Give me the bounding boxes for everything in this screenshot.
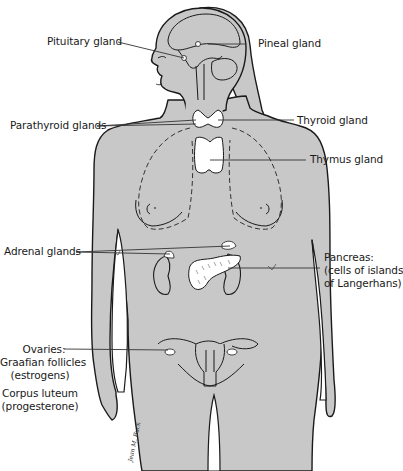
label-pancreas-line3: of Langerhans): [324, 277, 403, 290]
label-estrogens: (estrogens): [0, 369, 80, 382]
label-thyroid-gland: Thyroid gland: [297, 114, 368, 127]
adrenal-gland-right: [222, 241, 236, 249]
label-ovaries: Ovaries:: [0, 343, 80, 356]
label-pineal-gland: Pineal gland: [258, 37, 321, 50]
label-parathyroid-glands: Parathyroid glands: [10, 119, 106, 132]
label-pancreas-line2: (cells of islands: [324, 264, 403, 277]
label-thymus-gland: Thymus gland: [310, 153, 383, 166]
label-pituitary-gland: Pituitary gland: [47, 35, 122, 48]
label-pancreas: Pancreas: (cells of islands of Langerhan…: [324, 251, 403, 290]
label-pancreas-line1: Pancreas:: [324, 251, 403, 264]
label-ovaries-group: Ovaries: Graafian follicles (estrogens) …: [0, 343, 80, 413]
label-adrenal-glands: Adrenal glands: [4, 245, 81, 258]
thymus-gland-shape: [195, 137, 224, 173]
mouth: [156, 84, 162, 85]
pineal-gland-shape: [196, 42, 201, 47]
label-graafian-follicles: Graafian follicles: [0, 356, 80, 369]
label-progesterone: (progesterone): [0, 400, 80, 413]
label-corpus-luteum: Corpus luteum: [0, 387, 80, 400]
ovary-right: [227, 349, 237, 355]
